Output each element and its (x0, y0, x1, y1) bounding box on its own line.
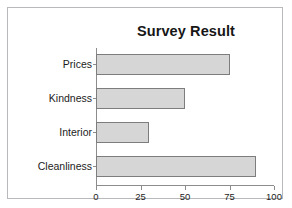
value-axis-tick-25 (141, 186, 142, 190)
bar-interior[interactable] (96, 122, 149, 143)
value-axis-tick-50 (185, 186, 186, 190)
category-label-cleanliness: Cleanliness (12, 160, 92, 172)
value-axis-tick-75 (230, 186, 231, 190)
value-axis-tick-100 (274, 186, 275, 190)
bar-cleanliness[interactable] (96, 156, 256, 177)
plot-area (96, 48, 274, 184)
category-label-kindness: Kindness (12, 92, 92, 104)
chart-title: Survey Result (96, 23, 276, 39)
bar-kindness[interactable] (96, 88, 185, 109)
value-axis-label-100: 100 (259, 191, 289, 202)
category-axis-labels: Prices Kindness Interior Cleanliness (8, 48, 92, 184)
value-axis-tick-0 (96, 186, 97, 190)
category-label-prices: Prices (12, 58, 92, 70)
bar-prices[interactable] (96, 54, 230, 75)
value-axis-label-50: 50 (170, 191, 200, 202)
chart-frame: Survey Result Prices Kindness Interior C… (7, 7, 283, 199)
category-label-interior: Interior (12, 126, 92, 138)
value-axis-label-0: 0 (81, 191, 111, 202)
value-axis-label-75: 75 (215, 191, 245, 202)
value-axis-label-25: 25 (126, 191, 156, 202)
